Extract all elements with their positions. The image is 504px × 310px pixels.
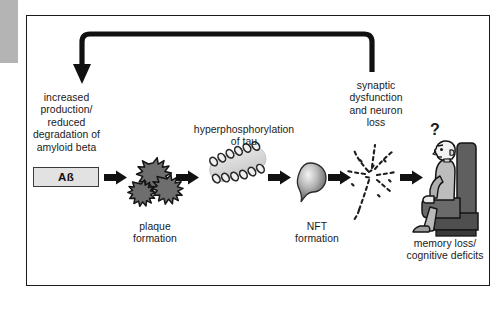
- question-mark: ?: [430, 121, 440, 139]
- label-memory-loss: memory loss/ cognitive deficits: [392, 238, 498, 263]
- left-gray-tab: [0, 0, 18, 63]
- figure-canvas: increased production/ reduced degradatio…: [0, 0, 504, 310]
- amyloid-beta-box: Aß: [33, 167, 99, 187]
- label-plaque-formation: plaque formation: [113, 221, 197, 246]
- label-hyperphosphorylation-of-tau: hyperphosphorylation of tau: [170, 124, 318, 149]
- label-synaptic-dysfunction: synaptic dysfunction and neuron loss: [333, 80, 419, 130]
- amyloid-beta-label: Aß: [58, 171, 74, 183]
- label-nft-formation: NFT formation: [282, 221, 352, 246]
- label-amyloid-production: increased production/ reduced degradatio…: [14, 92, 119, 154]
